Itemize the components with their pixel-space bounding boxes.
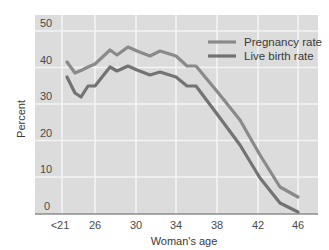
y-tick-40: 40 (40, 54, 52, 66)
line-chart: 50 40 30 20 10 0 <21 26 30 34 38 42 46 W… (0, 0, 329, 250)
y-tick-50: 50 (40, 17, 52, 29)
y-tick-0: 0 (44, 200, 50, 212)
x-axis-title: Woman's age (151, 235, 218, 247)
x-tick-26: 26 (89, 219, 101, 231)
y-tick-20: 20 (40, 127, 52, 139)
x-tick-46: 46 (292, 219, 304, 231)
x-tick-42: 42 (252, 219, 264, 231)
y-axis-title: Percent (15, 100, 27, 138)
y-tick-10: 10 (40, 163, 52, 175)
x-tick-30: 30 (130, 219, 142, 231)
x-tick-34: 34 (170, 219, 182, 231)
y-tick-30: 30 (40, 90, 52, 102)
x-tick-38: 38 (211, 219, 223, 231)
legend-label-pregnancy: Pregnancy rate (244, 36, 322, 48)
x-tick-lt21: <21 (51, 219, 70, 231)
legend-label-live-birth: Live birth rate (244, 50, 314, 62)
x-tick-labels: <21 26 30 34 38 42 46 (51, 219, 304, 231)
